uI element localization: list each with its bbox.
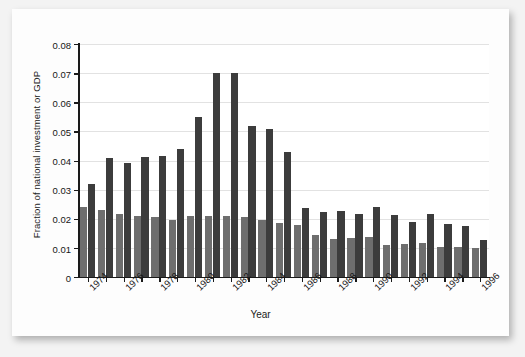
- y-tick-mark: [74, 219, 78, 220]
- bar: [187, 216, 194, 277]
- y-tick-label: 0: [66, 272, 71, 283]
- plot-area: [79, 44, 489, 277]
- bar: [141, 157, 148, 277]
- bar: [205, 216, 212, 277]
- y-tick-label: 0.04: [53, 156, 72, 167]
- y-tick: 0.04: [74, 161, 78, 162]
- y-tick-mark: [74, 161, 78, 162]
- bar: [294, 225, 301, 277]
- y-tick-mark: [74, 190, 78, 191]
- bar: [373, 207, 380, 277]
- x-tick-mark: [231, 277, 232, 282]
- x-tick-mark: [320, 277, 321, 282]
- y-tick-mark: [74, 73, 78, 74]
- x-tick-mark: [427, 277, 428, 282]
- bar: [88, 184, 95, 277]
- gridline: [79, 102, 489, 103]
- x-tick-mark: [462, 277, 463, 282]
- bar: [213, 73, 220, 277]
- x-tick-mark: [248, 277, 249, 282]
- y-tick: 0.07: [74, 73, 78, 74]
- figure-card: Fraction of national investment or GDP 0…: [12, 9, 509, 336]
- y-tick-mark: [74, 277, 78, 278]
- y-axis-line: [78, 43, 80, 278]
- bar: [116, 214, 123, 277]
- y-tick: 0.02: [74, 219, 78, 220]
- y-tick-label: 0.02: [53, 214, 72, 225]
- bar: [106, 158, 113, 277]
- x-tick-mark: [141, 277, 142, 282]
- bar: [330, 239, 337, 277]
- y-tick-label: 0.07: [53, 68, 72, 79]
- bar: [391, 215, 398, 277]
- bar: [401, 244, 408, 277]
- bar: [159, 156, 166, 277]
- y-tick-label: 0.08: [53, 39, 72, 50]
- bar: [472, 248, 479, 277]
- y-tick-label: 0.05: [53, 127, 72, 138]
- x-tick-mark: [213, 277, 214, 282]
- x-tick-mark: [106, 277, 107, 282]
- bar: [134, 216, 141, 277]
- bar: [248, 126, 255, 277]
- bar: [223, 216, 230, 277]
- y-tick-mark: [74, 131, 78, 132]
- bar: [258, 220, 265, 277]
- screenshot-root: Fraction of national investment or GDP 0…: [0, 0, 525, 357]
- y-tick-mark: [74, 102, 78, 103]
- gridline: [79, 44, 489, 45]
- y-tick-label: 0.01: [53, 243, 72, 254]
- y-tick-mark: [74, 44, 78, 45]
- x-tick-mark: [177, 277, 178, 282]
- bar: [365, 237, 372, 277]
- y-tick-label: 0.06: [53, 97, 72, 108]
- bar: [302, 208, 309, 277]
- y-tick: 0.06: [74, 102, 78, 103]
- bar: [266, 129, 273, 277]
- y-tick-label: 0.03: [53, 185, 72, 196]
- y-tick: 0.03: [74, 190, 78, 191]
- bar: [320, 212, 327, 277]
- y-tick: 0.01: [74, 248, 78, 249]
- bar: [337, 211, 344, 277]
- bar: [169, 220, 176, 277]
- bar: [124, 163, 131, 277]
- gridline: [79, 73, 489, 74]
- bar: [195, 117, 202, 277]
- bar: [409, 222, 416, 277]
- y-tick: 0.08: [74, 44, 78, 45]
- gridline: [79, 131, 489, 132]
- bar: [80, 207, 87, 277]
- bar: [231, 73, 238, 277]
- x-tick-mark: [355, 277, 356, 282]
- y-tick: 0: [74, 277, 78, 278]
- bar: [427, 214, 434, 277]
- bar: [437, 247, 444, 277]
- y-tick-mark: [74, 248, 78, 249]
- bar: [480, 240, 487, 277]
- x-tick-mark: [124, 277, 125, 282]
- bar: [241, 217, 248, 277]
- bar: [284, 152, 291, 277]
- x-tick-mark: [284, 277, 285, 282]
- bar: [177, 149, 184, 277]
- bar: [98, 210, 105, 277]
- y-tick: 0.05: [74, 131, 78, 132]
- bar-chart-figure: Fraction of national investment or GDP 0…: [12, 9, 509, 336]
- x-tick-mark: [391, 277, 392, 282]
- bar: [462, 226, 469, 277]
- bar: [151, 217, 158, 277]
- bar: [444, 224, 451, 277]
- bar: [355, 214, 362, 277]
- y-axis-title: Fraction of national investment or GDP: [31, 45, 42, 265]
- x-axis-title: Year: [12, 309, 509, 320]
